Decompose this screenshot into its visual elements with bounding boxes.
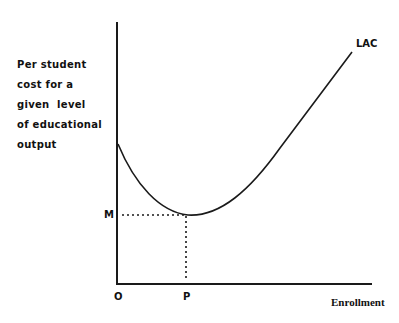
lac-curve [118, 52, 352, 215]
y-label-line: of educational [17, 115, 102, 135]
diagram-canvas [0, 0, 399, 323]
p-label: P [183, 291, 190, 302]
lac-label: LAC [356, 38, 377, 49]
y-label-line: given level [17, 95, 102, 115]
y-label-line: Per student [17, 55, 102, 75]
y-label-line: output [17, 135, 102, 155]
x-axis-label: Enrollment [331, 296, 385, 308]
y-label-line: cost for a [17, 75, 102, 95]
y-axis-label: Per student cost for a given level of ed… [17, 55, 102, 155]
origin-label: O [114, 291, 123, 302]
m-label: M [104, 209, 114, 220]
